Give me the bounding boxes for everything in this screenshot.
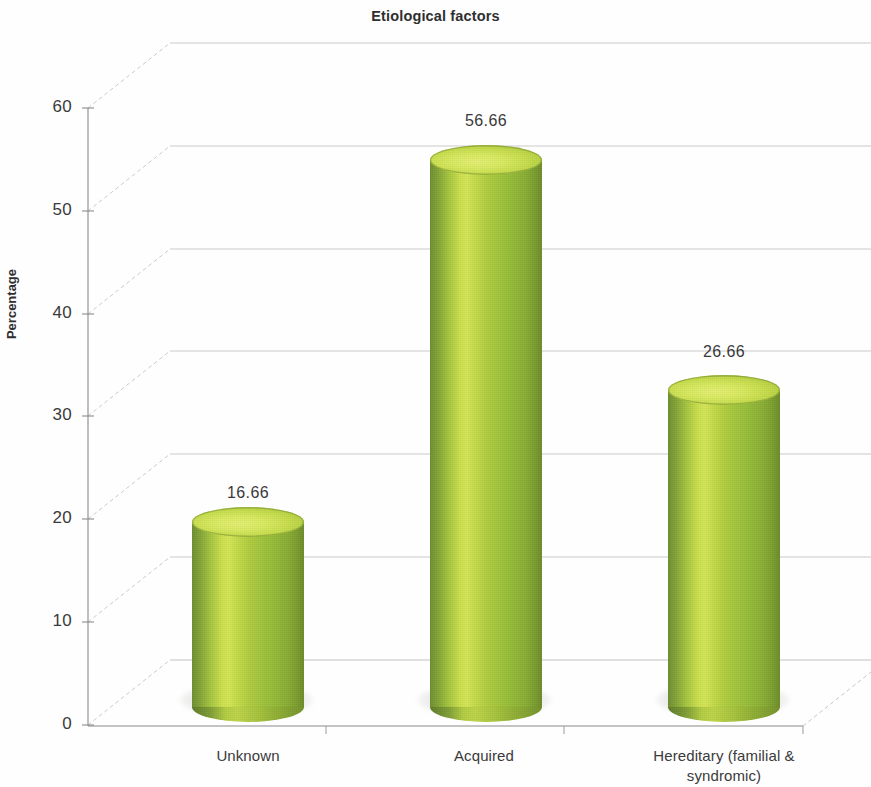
bar-body	[430, 160, 542, 707]
category-label-unknown: Unknown	[168, 746, 328, 766]
floor-depth-edge	[803, 672, 871, 726]
bar-value-label-unknown: 16.66	[188, 484, 308, 502]
category-label-hereditary: Hereditary (familial & syndromic)	[604, 746, 844, 786]
y-tick-label-30: 30	[14, 405, 72, 425]
bar-value-label-acquired: 56.66	[426, 112, 546, 130]
category-label-line2: syndromic)	[604, 766, 844, 786]
y-tick-label-50: 50	[14, 200, 72, 220]
y-tick-label-40: 40	[14, 303, 72, 323]
bar-top-ellipse	[430, 145, 542, 175]
y-tick-label-60: 60	[14, 97, 72, 117]
y-tick-label-20: 20	[14, 508, 72, 528]
category-label-acquired: Acquired	[404, 746, 564, 766]
bar-top-ellipse	[192, 507, 304, 537]
category-label-line1: Unknown	[168, 746, 328, 766]
bar-value-label-hereditary: 26.66	[664, 343, 784, 361]
y-tick-label-0: 0	[14, 714, 72, 734]
bar-body	[192, 522, 304, 707]
bar-top-ellipse	[668, 375, 780, 405]
category-label-line1: Acquired	[404, 746, 564, 766]
x-axis-ticks	[326, 726, 803, 734]
y-tick-label-10: 10	[14, 611, 72, 631]
bar-body	[668, 390, 780, 707]
category-label-line1: Hereditary (familial &	[604, 746, 844, 766]
chart-container: Etiological factors Percentage	[0, 0, 871, 787]
